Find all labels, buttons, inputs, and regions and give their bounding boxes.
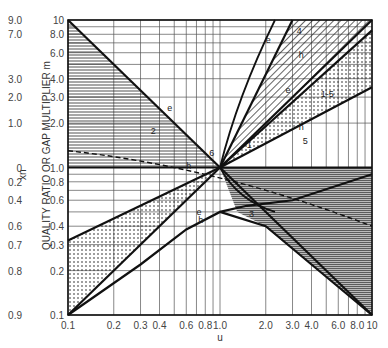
y-tick-label: 10 <box>53 15 65 26</box>
y-tick-label: 3.0 <box>50 92 64 103</box>
curve-label: 5 <box>303 136 308 146</box>
xn-tick-label: 0.7 <box>8 240 22 251</box>
curve-label: 1 <box>247 140 252 150</box>
y-axis-label: QUALITY RATIO OR GAP MULTIPLIER m <box>41 61 52 250</box>
xn-tick-label: 9.0 <box>8 15 22 26</box>
xn-tick-label: 1.0 <box>8 118 22 129</box>
x-tick-label: 0.8 <box>198 320 212 331</box>
y-tick-label: 0.1 <box>50 310 64 321</box>
y-tick-label: 4.0 <box>50 74 64 85</box>
x-tick-label: 10 <box>366 320 378 331</box>
xn-tick-label: 0.4 <box>8 195 22 206</box>
x-tick-label: 8.0 <box>350 320 364 331</box>
y-tick-label: 0.3 <box>50 240 64 251</box>
x-tick-label: 1.0 <box>213 320 227 331</box>
y-tick-label: 0.6 <box>50 195 64 206</box>
xn-tick-label: 3.0 <box>8 74 22 85</box>
x-tick-label: 0.3 <box>134 320 148 331</box>
y-tick-label: 0.4 <box>50 221 64 232</box>
x-tick-label: 0.4 <box>153 320 167 331</box>
chart-canvas: 0.10.20.30.40.60.81.02.03.04.06.08.0100.… <box>0 0 388 348</box>
curve-label: e <box>266 35 271 45</box>
y-tick-label: 2.0 <box>50 118 64 129</box>
curve-label: h <box>299 50 304 60</box>
xn-tick-label: 0.6 <box>8 221 22 232</box>
curve-label: e <box>167 103 172 113</box>
x-tick-label: 6.0 <box>331 320 345 331</box>
xn-tick-label: 0.9 <box>8 310 22 321</box>
curve-label: h <box>186 161 191 171</box>
curve-label: 1-5 <box>321 89 334 99</box>
xn-tick-label: 7.0 <box>8 29 22 40</box>
y-tick-label: 0.8 <box>50 177 64 188</box>
x-tick-label: 0.1 <box>61 320 75 331</box>
xn-tick-label: 2.0 <box>8 92 22 103</box>
curve-label: 3 <box>249 209 254 219</box>
x-tick-label: 0.2 <box>107 320 121 331</box>
x-tick-label: 0.6 <box>179 320 193 331</box>
x-tick-label: 4.0 <box>305 320 319 331</box>
xn-tick-label: 0.8 <box>8 266 22 277</box>
y-tick-label: 6.0 <box>50 48 64 59</box>
y-tick-label: 0.2 <box>50 266 64 277</box>
curve-label: h <box>198 215 203 225</box>
x-axis-label: u <box>217 332 223 343</box>
curve-label: 2 <box>151 126 156 136</box>
x-tick-label: 2.0 <box>259 320 273 331</box>
y-tick-label: 1.0 <box>50 163 64 174</box>
y-tick-label: 8.0 <box>50 29 64 40</box>
curve-label: h <box>299 122 304 132</box>
curve-label: 4 <box>297 26 302 36</box>
curve-label: 6 <box>209 148 214 158</box>
curve-label: e <box>286 85 291 95</box>
xn-axis-label: xn <box>17 169 28 180</box>
x-tick-label: 3.0 <box>286 320 300 331</box>
